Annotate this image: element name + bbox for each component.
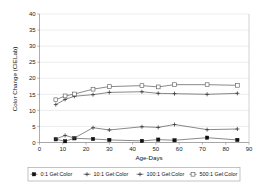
- x-tick-label: 40: [129, 146, 136, 152]
- marker-open-square: [107, 85, 111, 89]
- marker-open-square: [235, 83, 239, 87]
- marker-open-square: [191, 172, 195, 176]
- marker-filled-square: [32, 173, 35, 176]
- marker-filled-square: [173, 139, 176, 142]
- legend-label: 100:1 Gel:Color: [147, 171, 185, 177]
- legend-label: 10:1 Gel:Color: [94, 171, 129, 177]
- chart-container: 0102030405060708090 0510152025303540 Age…: [0, 0, 267, 188]
- marker-open-square: [73, 92, 77, 96]
- legend-label: 500:1 Gel:Color: [200, 171, 238, 177]
- y-tick-label: 20: [29, 75, 36, 81]
- marker-filled-square: [157, 138, 160, 141]
- marker-open-square: [173, 83, 177, 87]
- marker-open-square: [140, 84, 144, 88]
- marker-open-square: [63, 94, 67, 98]
- marker-filled-square: [205, 136, 208, 139]
- y-tick-label: 40: [29, 11, 36, 17]
- legend-label: 0:1 Gel:Color: [41, 171, 73, 177]
- y-tick-label: 10: [29, 108, 36, 114]
- marker-filled-square: [236, 138, 239, 141]
- y-tick-label: 25: [29, 59, 36, 65]
- marker-open-square: [54, 98, 58, 102]
- marker-open-square: [205, 83, 209, 87]
- x-tick-label: 50: [153, 146, 160, 152]
- y-tick-label: 35: [29, 27, 36, 33]
- x-tick-label: 70: [199, 146, 206, 152]
- x-tick-label: 90: [246, 146, 253, 152]
- x-tick-label: 80: [222, 146, 229, 152]
- x-axis-title: Age-Days: [135, 154, 162, 161]
- marker-filled-square: [91, 137, 94, 140]
- marker-filled-square: [63, 140, 66, 143]
- y-tick-label: 15: [29, 92, 36, 98]
- y-axis-title: Color Change (CIELab): [11, 47, 18, 112]
- x-tick-label: 30: [106, 146, 113, 152]
- marker-open-square: [91, 87, 95, 91]
- line-chart: 0102030405060708090 0510152025303540 Age…: [0, 0, 267, 188]
- y-tick-label: 30: [29, 43, 36, 49]
- marker-filled-square: [140, 139, 143, 142]
- x-tick-label: 10: [59, 146, 66, 152]
- x-tick-label: 20: [83, 146, 90, 152]
- marker-filled-square: [108, 138, 111, 141]
- marker-open-square: [156, 85, 160, 89]
- x-tick-label: 60: [176, 146, 183, 152]
